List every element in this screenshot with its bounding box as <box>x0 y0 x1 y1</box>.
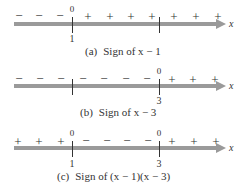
tick-label-3: 3 <box>157 159 162 169</box>
caption-text: Sign of (x − 1)(x − 3) <box>75 170 170 182</box>
number-line <box>14 146 218 150</box>
sign-chart-c: + + + 0 − − − − 0 + + + x 1 3 (c)Sign of… <box>0 0 245 191</box>
caption-label: (c) <box>57 170 69 182</box>
tick-label-1: 1 <box>70 159 75 169</box>
caption-c: (c)Sign of (x − 1)(x − 3) <box>57 170 170 182</box>
arrow-head-icon <box>216 143 226 153</box>
zero-marker: 0 <box>70 129 75 138</box>
tick-3 <box>159 141 160 157</box>
zero-marker: 0 <box>157 129 162 138</box>
tick-1 <box>72 141 73 157</box>
axis-label-x: x <box>229 142 233 153</box>
